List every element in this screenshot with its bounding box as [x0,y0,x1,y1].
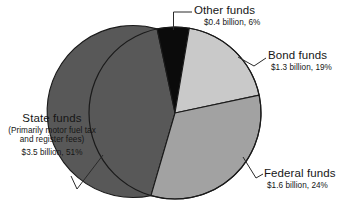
slice-label-bond-funds: Bond funds $1.3 billion, 19% [268,49,332,72]
slice-label-state-funds: State funds (Primarily motor fuel tax an… [4,112,100,158]
slice-label-federal-funds: Federal funds $1.6 billion, 24% [264,167,336,190]
slice-label-bond-funds-title: Bond funds [268,49,332,63]
pie-chart-figure: Other funds $0.4 billion, 6% Bond funds … [0,0,357,218]
slice-label-state-funds-note: (Primarily motor fuel tax and register f… [4,126,100,145]
slice-label-other-funds-title: Other funds [194,4,260,18]
slice-label-other-funds: Other funds $0.4 billion, 6% [194,4,260,27]
slice-label-state-funds-value: $3.5 billion, 51% [4,145,100,158]
slice-label-bond-funds-value: $1.3 billion, 19% [268,63,332,73]
slice-label-federal-funds-title: Federal funds [264,167,336,181]
slice-label-state-funds-title: State funds [4,112,100,126]
slice-label-federal-funds-value: $1.6 billion, 24% [264,181,336,191]
slice-label-other-funds-value: $0.4 billion, 6% [194,18,260,28]
